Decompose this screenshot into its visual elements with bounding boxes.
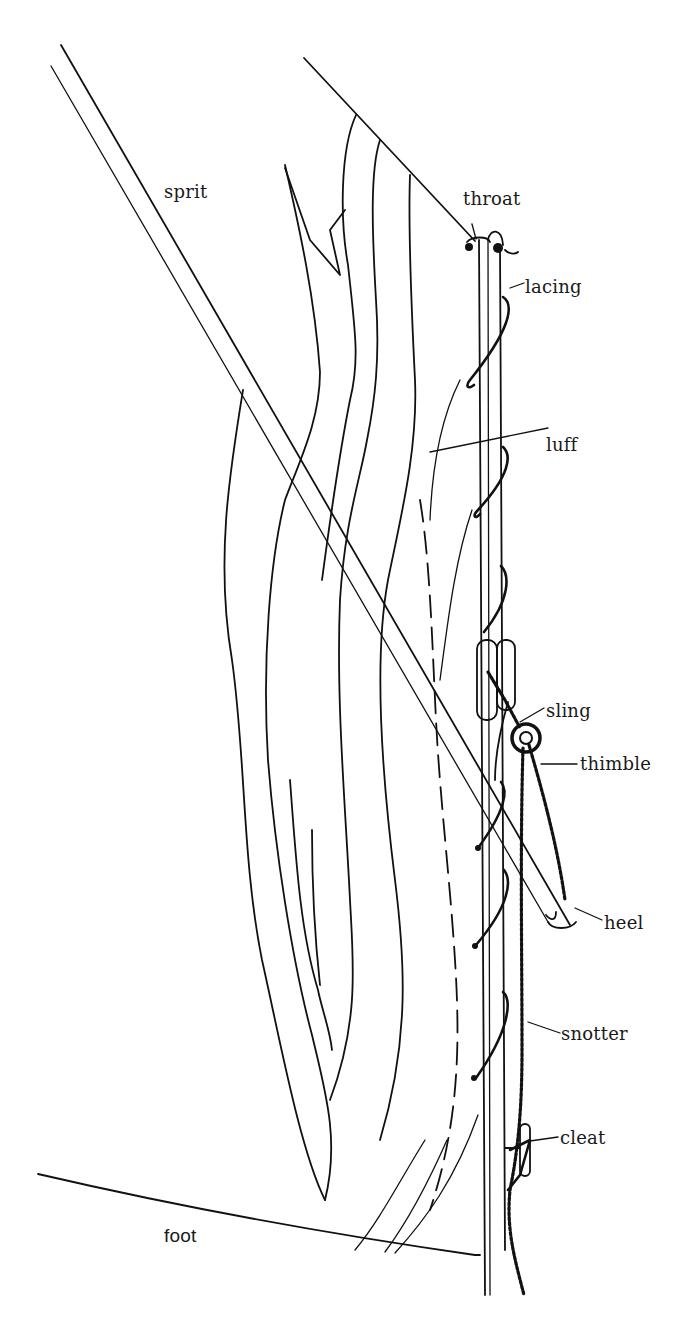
label-lacing: lacing: [525, 278, 582, 296]
throat-fitting: [465, 224, 518, 254]
sling-collar: [477, 640, 520, 780]
label-throat: throat: [463, 190, 520, 208]
sail-folds: [224, 115, 478, 1253]
label-luff: luff: [546, 436, 577, 454]
sail-head: [304, 58, 475, 241]
label-sprit: sprit: [164, 183, 207, 201]
spritsail-drawing: [0, 0, 691, 1318]
label-heel: heel: [604, 914, 643, 932]
label-cleat: cleat: [560, 1129, 605, 1147]
label-snotter: snotter: [561, 1025, 628, 1043]
label-sling: sling: [546, 702, 591, 720]
spritsail-diagram: sprit throat lacing luff sling thimble h…: [0, 0, 691, 1318]
mast: [479, 232, 505, 1295]
thimble: [512, 724, 540, 752]
label-foot: foot: [164, 1226, 197, 1245]
label-thimble: thimble: [580, 755, 651, 773]
sail-foot: [38, 1174, 480, 1255]
snotter: [509, 745, 565, 1295]
